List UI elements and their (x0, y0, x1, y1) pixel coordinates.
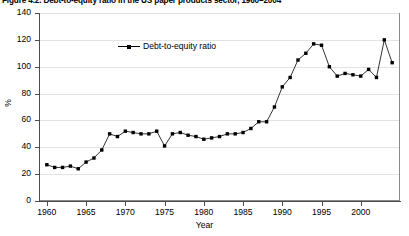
x-tick-label-1980: 1980 (184, 207, 224, 217)
plot-area (39, 13, 400, 201)
y-tick-100 (35, 67, 39, 68)
x-tick-label-1985: 1985 (223, 207, 263, 217)
y-axis-line (39, 13, 40, 202)
x-tick-label-1975: 1975 (145, 207, 185, 217)
x-tick-1990 (282, 202, 283, 206)
chart-legend: Debt-to-equity ratio (118, 41, 216, 52)
gridline-y-120 (40, 40, 399, 41)
legend-label: Debt-to-equity ratio (143, 42, 216, 51)
x-axis-line (39, 201, 401, 202)
figure-title: Figure 4.2. Debt-to-equity ratio in the … (2, 0, 407, 6)
y-tick-120 (35, 40, 39, 41)
gridline-y-100 (40, 67, 399, 68)
x-tick-2000 (361, 202, 362, 206)
y-tick-20 (35, 174, 39, 175)
x-tick-1995 (322, 202, 323, 206)
y-tick-label-20: 20 (0, 169, 35, 178)
x-tick-1965 (86, 202, 87, 206)
y-tick-label-140: 140 (0, 8, 35, 17)
y-tick-label-40: 40 (0, 142, 35, 151)
y-tick-80 (35, 94, 39, 95)
y-tick-140 (35, 13, 39, 14)
y-tick-label-80: 80 (0, 89, 35, 98)
x-tick-1985 (243, 202, 244, 206)
x-tick-label-1970: 1970 (105, 207, 145, 217)
gridline-y-140 (40, 13, 399, 14)
y-tick-label-100: 100 (0, 62, 35, 71)
x-tick-label-1960: 1960 (27, 207, 67, 217)
y-tick-label-60: 60 (0, 115, 35, 124)
x-axis-title: Year (0, 220, 409, 230)
x-tick-label-1990: 1990 (262, 207, 302, 217)
gridline-y-20 (40, 174, 399, 175)
gridline-y-80 (40, 94, 399, 95)
x-tick-1960 (47, 202, 48, 206)
figure-root: Figure 4.2. Debt-to-equity ratio in the … (0, 0, 409, 236)
y-tick-label-0: 0 (0, 196, 35, 205)
legend-marker-icon (118, 42, 140, 51)
y-tick-label-120: 120 (0, 35, 35, 44)
y-tick-40 (35, 147, 39, 148)
y-tick-60 (35, 120, 39, 121)
x-tick-label-1965: 1965 (66, 207, 106, 217)
y-tick-0 (35, 201, 39, 202)
gridline-y-40 (40, 147, 399, 148)
x-tick-label-2000: 2000 (341, 207, 381, 217)
x-tick-1970 (125, 202, 126, 206)
x-tick-label-1995: 1995 (302, 207, 342, 217)
x-tick-1975 (165, 202, 166, 206)
x-tick-1980 (204, 202, 205, 206)
gridline-y-60 (40, 120, 399, 121)
